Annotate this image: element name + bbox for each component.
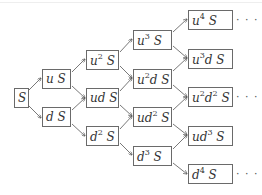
- node-label: u2d S: [137, 73, 170, 86]
- node-ud2S: ud2 S: [133, 107, 172, 127]
- node-u2S: u2 S: [86, 50, 119, 70]
- continuation-dots: · · ·: [236, 13, 258, 26]
- continuation-dots: · · ·: [236, 90, 258, 103]
- node-u2d2S: u2d2 S: [188, 87, 233, 107]
- node-uS: u S: [42, 69, 71, 89]
- node-dS: d S: [42, 107, 71, 127]
- node-label: d3 S: [137, 150, 162, 163]
- node-label: u3d S: [192, 53, 225, 66]
- node-label: ud3 S: [192, 130, 225, 143]
- node-d3S: d3 S: [133, 146, 172, 166]
- node-label: u2 S: [90, 54, 115, 67]
- node-S: S: [14, 88, 29, 108]
- node-label: d2 S: [90, 130, 115, 143]
- node-label: u S: [46, 73, 66, 85]
- node-label: u4 S: [192, 14, 217, 27]
- node-label: ud S: [90, 92, 117, 104]
- node-d2S: d2 S: [86, 126, 119, 146]
- node-udS: ud S: [86, 88, 119, 108]
- node-u3dS: u3d S: [188, 49, 233, 69]
- node-u2dS: u2d S: [133, 69, 172, 89]
- continuation-dots: · · ·: [236, 167, 258, 180]
- node-label: ud2 S: [137, 111, 170, 124]
- node-label: d S: [46, 111, 66, 123]
- node-u4S: u4 S: [188, 10, 233, 30]
- node-label: d4 S: [192, 168, 217, 181]
- node-u3S: u3 S: [133, 30, 172, 50]
- node-label: u2d2 S: [192, 91, 230, 104]
- node-label: S: [18, 92, 26, 104]
- node-ud3S: ud3 S: [188, 126, 233, 146]
- node-label: u3 S: [137, 34, 162, 47]
- node-d4S: d4 S: [188, 164, 233, 184]
